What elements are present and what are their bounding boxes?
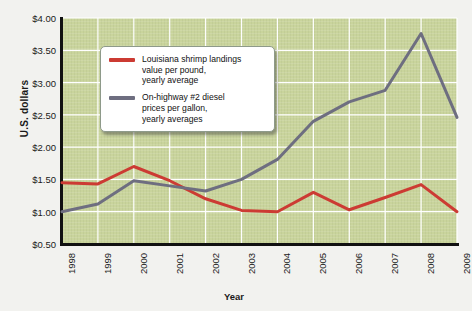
x-axis-title: Year	[0, 291, 468, 302]
legend-label-diesel-line1: On-highway #2 diesel	[142, 92, 225, 103]
chart-legend: Louisiana shrimp landings value per poun…	[100, 46, 275, 132]
y-axis-title: U.S. dollars	[19, 64, 30, 154]
legend-item-diesel: On-highway #2 diesel prices per gallon, …	[109, 92, 266, 124]
legend-label-diesel-line3: yearly averages	[142, 114, 225, 125]
legend-label-diesel: On-highway #2 diesel prices per gallon, …	[142, 92, 225, 124]
legend-swatch-diesel	[109, 96, 135, 100]
legend-item-shrimp: Louisiana shrimp landings value per poun…	[109, 54, 266, 86]
legend-label-shrimp: Louisiana shrimp landings value per poun…	[142, 54, 241, 86]
legend-label-shrimp-line1: Louisiana shrimp landings	[142, 54, 241, 65]
legend-swatch-shrimp	[109, 58, 135, 62]
legend-label-shrimp-line3: yearly average	[142, 75, 241, 86]
legend-label-diesel-line2: prices per gallon,	[142, 103, 225, 114]
legend-label-shrimp-line2: value per pound,	[142, 65, 241, 76]
